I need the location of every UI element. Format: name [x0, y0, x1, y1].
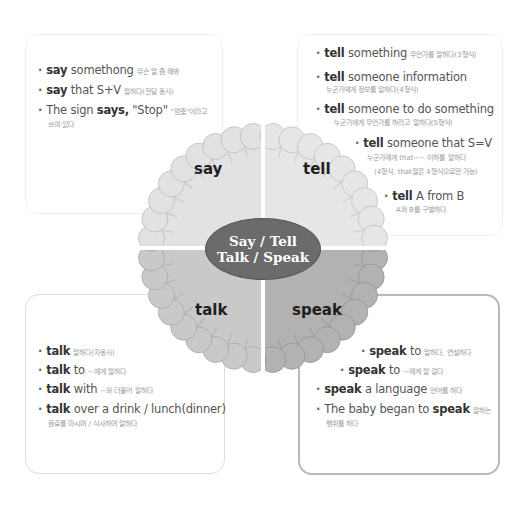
tell-item-5: ·tell A from B [384, 189, 464, 203]
talk-item-3: ·talk with~와 더불어 말하다 [38, 382, 153, 398]
talk-item-1: ·talk말하다(자동사) [38, 344, 115, 360]
tell-item-2-sub: 누군가에게 정보를 말하다(4형식) [326, 86, 418, 95]
speak-item-4: ·The baby began to speak말하는 [316, 402, 491, 418]
center-title-line2: Talk / Speak [217, 249, 309, 265]
tell-item-3: ·tell someone to do something [316, 102, 494, 116]
speak-item-3: ·speak a language언어를 하다 [316, 382, 462, 398]
speak-item-1: ·speak to말하다, 연설하다 [361, 344, 471, 360]
center-title-oval: Say / Tell Talk / Speak [205, 218, 321, 280]
center-title-line1: Say / Tell [229, 233, 297, 249]
say-item-3-sub: 쓰여 있다 [48, 121, 74, 130]
talk-item-4: ·talk over a drink / lunch(dinner) [38, 402, 226, 416]
speak-item-2: ·speak to~에게 말 걸다 [340, 363, 443, 379]
talk-label: talk [195, 301, 227, 319]
tell-item-1: ·tell something무언가를 말하다(3형식) [316, 46, 476, 62]
tell-item-4-sub2: (4형식, that절은 4형식으로만 가능) [374, 168, 478, 177]
say-label: say [194, 160, 222, 178]
say-item-3: ·The sign says, "Stop""멈춤"이라고 [38, 103, 207, 119]
tell-item-5-sub: A와 B를 구별하다 [396, 206, 446, 215]
tell-item-4: ·tell someone that S=V [355, 136, 492, 150]
tell-item-4-sub: 누군가에게 that~~ 이하를 말하다 [367, 154, 466, 163]
tell-item-2: ·tell someone information [316, 70, 467, 84]
talk-item-4-sub: 음료를 마시며 / 식사하며 말하다 [48, 420, 137, 429]
tell-item-3-sub: 누군가에게 무언가를 하라고 말하다(5형식) [334, 119, 453, 128]
talk-item-2: ·talk to~에게 말하다 [38, 363, 126, 379]
say-item-1: ·say somethong무슨 말 좀 해봐 [38, 63, 179, 79]
tell-label: tell [303, 160, 331, 178]
speak-label: speak [292, 301, 342, 319]
say-item-2: ·say that S+V말하다(전달 동사) [38, 83, 174, 99]
speak-item-4-sub: 행위를 하다 [326, 420, 358, 429]
